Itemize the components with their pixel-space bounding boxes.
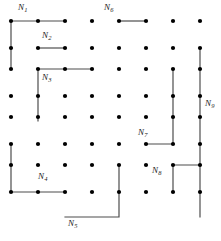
lattice-dot	[198, 190, 202, 194]
label-subscript: 9	[211, 102, 214, 109]
path-n1	[11, 21, 65, 69]
path-n8	[173, 165, 200, 192]
lattice-dot	[9, 94, 13, 98]
lattice-dot	[90, 19, 94, 23]
label-subscript: 2	[48, 34, 51, 41]
lattice-dot	[144, 19, 148, 23]
lattice-dot	[9, 67, 13, 71]
lattice-dot	[63, 67, 67, 71]
lattice-dot	[117, 46, 121, 50]
label-n7: N7	[138, 128, 147, 137]
lattice-dot	[171, 19, 175, 23]
label-subscript: 6	[110, 6, 113, 13]
lattice-dot	[63, 163, 67, 167]
lattice-dot	[171, 142, 175, 146]
lattice-dot	[198, 67, 202, 71]
lattice-dot	[63, 115, 67, 119]
lattice-dot	[144, 163, 148, 167]
label-n3: N3	[42, 73, 51, 82]
lattice-dot	[63, 190, 67, 194]
lattice-dot	[9, 163, 13, 167]
lattice-dot	[9, 142, 13, 146]
lattice-dot	[9, 46, 13, 50]
lattice-dot	[90, 46, 94, 50]
lattice-dot	[144, 94, 148, 98]
lattice-dot	[171, 94, 175, 98]
lattice-dot	[171, 163, 175, 167]
lattice-dot	[117, 67, 121, 71]
lattice-dot	[144, 190, 148, 194]
label-n2: N2	[42, 31, 51, 40]
lattice-dot	[117, 142, 121, 146]
label-n4: N4	[38, 172, 47, 181]
lattice-dot	[9, 19, 13, 23]
lattice-dot	[36, 163, 40, 167]
lattice-dot	[171, 115, 175, 119]
lattice-dot	[117, 19, 121, 23]
lattice-dot	[117, 190, 121, 194]
lattice-dot	[63, 46, 67, 50]
lattice-dot	[36, 67, 40, 71]
path-n7	[146, 69, 173, 144]
label-n6: N6	[104, 3, 113, 12]
lattice-dot	[144, 142, 148, 146]
lattice-dot	[198, 115, 202, 119]
lattice-dot	[198, 94, 202, 98]
lattice-dot	[36, 190, 40, 194]
path-layer	[11, 21, 200, 217]
lattice-dot	[171, 190, 175, 194]
lattice-dot	[63, 94, 67, 98]
label-subscript: 5	[74, 222, 77, 229]
label-subscript: 1	[24, 6, 27, 13]
lattice-dot	[144, 67, 148, 71]
lattice-dot	[36, 94, 40, 98]
lattice-dot	[90, 115, 94, 119]
lattice-path-figure: N1N2N3N4N5N6N7N8N9	[0, 0, 221, 241]
label-n1: N1	[18, 3, 27, 12]
figure-canvas	[0, 0, 221, 241]
lattice-dot	[9, 115, 13, 119]
label-subscript: 8	[158, 169, 161, 176]
lattice-dot	[117, 115, 121, 119]
label-subscript: 3	[48, 76, 51, 83]
lattice-dot	[117, 94, 121, 98]
lattice-dot	[63, 19, 67, 23]
lattice-dot	[36, 19, 40, 23]
label-n8: N8	[152, 166, 161, 175]
lattice-dot	[36, 142, 40, 146]
lattice-dot	[171, 46, 175, 50]
lattice-dot	[198, 19, 202, 23]
lattice-dot	[90, 163, 94, 167]
lattice-dot	[36, 115, 40, 119]
lattice-dot	[90, 190, 94, 194]
lattice-dot	[144, 46, 148, 50]
label-subscript: 7	[144, 131, 147, 138]
lattice-dot	[198, 163, 202, 167]
lattice-dot	[63, 142, 67, 146]
lattice-dot	[144, 115, 148, 119]
lattice-dot	[198, 142, 202, 146]
lattice-dot	[90, 142, 94, 146]
path-n4	[11, 144, 65, 192]
lattice-dot	[9, 190, 13, 194]
label-n9: N9	[205, 99, 214, 108]
lattice-dot	[198, 46, 202, 50]
lattice-dot	[90, 94, 94, 98]
lattice-dot	[117, 163, 121, 167]
lattice-dot	[90, 67, 94, 71]
label-n5: N5	[68, 219, 77, 228]
lattice-dot	[171, 67, 175, 71]
label-subscript: 4	[44, 175, 47, 182]
lattice-dot	[36, 46, 40, 50]
